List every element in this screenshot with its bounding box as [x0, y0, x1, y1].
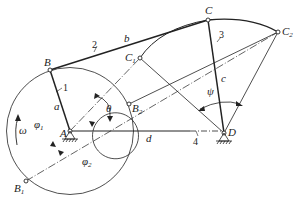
four-bar-linkage-diagram: B A C D C1 C2 B2 B1 1 2 3 4 a b c d θ ψ …	[0, 0, 300, 200]
length-c: c	[221, 72, 226, 84]
label-d: D	[227, 126, 236, 138]
rocker-c2-d	[224, 32, 278, 133]
joint-b	[48, 68, 52, 72]
phi2-arrowhead-b	[58, 150, 64, 156]
phi2-arrowhead	[50, 141, 56, 147]
theta-arrowhead-bottom	[107, 116, 113, 122]
psi-arrowhead-left	[198, 106, 205, 111]
link-number-3: 3	[219, 29, 224, 40]
omega-arrowhead	[15, 114, 21, 121]
joint-c2	[276, 30, 280, 34]
angle-phi2: φ2	[82, 155, 92, 169]
length-d: d	[146, 132, 152, 144]
theta-arrowhead-top	[94, 93, 100, 99]
joint-b2	[127, 102, 131, 106]
joint-c	[206, 18, 210, 22]
phi1-arrowhead	[89, 121, 95, 127]
label-c2: C2	[282, 25, 293, 39]
link-number-4: 4	[193, 136, 198, 147]
length-b: b	[124, 32, 130, 44]
joint-c1	[138, 56, 142, 60]
omega-arc	[16, 118, 18, 145]
angle-psi: ψ	[207, 85, 214, 97]
label-c: C	[205, 4, 213, 16]
link-number-2: 2	[92, 39, 97, 50]
link-number-1: 1	[63, 82, 68, 93]
label-a: A	[59, 127, 67, 139]
joint-b1	[24, 179, 28, 183]
psi-arrowhead-right	[236, 101, 243, 106]
label-b: B	[44, 56, 51, 68]
angle-omega: ω	[19, 124, 27, 136]
label-b2: B2	[132, 102, 143, 116]
limit-line-b1-c2	[26, 32, 278, 181]
phi-circle	[93, 113, 139, 159]
label-b1: B1	[14, 182, 24, 196]
angle-theta: θ	[106, 102, 112, 114]
crank-link-1	[50, 70, 70, 131]
label-c1: C1	[125, 51, 136, 65]
length-a: a	[54, 100, 60, 112]
angle-phi1: φ1	[34, 118, 44, 132]
